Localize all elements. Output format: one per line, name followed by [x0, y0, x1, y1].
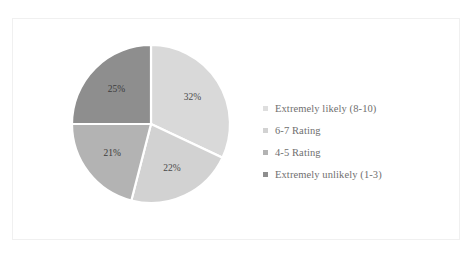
legend-swatch-icon: [263, 106, 268, 111]
legend-item-label: 6-7 Rating: [275, 125, 321, 136]
chart-screenshot: 32% 22% 21% 25% Extremely likely (8-10) …: [0, 0, 472, 264]
pie-slices: [72, 45, 230, 203]
legend-item-extremely-likely[interactable]: Extremely likely (8-10): [263, 97, 453, 119]
pie-label-rating-6-7: 22%: [163, 163, 181, 173]
legend-swatch-icon: [263, 150, 268, 155]
pie-svg: 32% 22% 21% 25%: [66, 39, 236, 209]
plot-area: 32% 22% 21% 25% Extremely likely (8-10) …: [13, 19, 459, 239]
legend-swatch-icon: [263, 172, 268, 177]
pie-label-extremely-unlikely: 25%: [108, 84, 126, 94]
pie-label-rating-4-5: 21%: [104, 148, 122, 158]
legend-swatch-icon: [263, 128, 268, 133]
pie-chart: 32% 22% 21% 25%: [66, 39, 236, 209]
legend-item-extremely-unlikely[interactable]: Extremely unlikely (1-3): [263, 163, 453, 185]
chart-frame: 32% 22% 21% 25% Extremely likely (8-10) …: [12, 18, 460, 240]
legend-item-rating-6-7[interactable]: 6-7 Rating: [263, 119, 453, 141]
legend-item-label: Extremely likely (8-10): [275, 103, 376, 114]
chart-legend: Extremely likely (8-10) 6-7 Rating 4-5 R…: [263, 97, 453, 185]
pie-label-extremely-likely: 32%: [184, 92, 202, 102]
legend-item-rating-4-5[interactable]: 4-5 Rating: [263, 141, 453, 163]
legend-item-label: 4-5 Rating: [275, 147, 321, 158]
legend-item-label: Extremely unlikely (1-3): [275, 169, 382, 180]
